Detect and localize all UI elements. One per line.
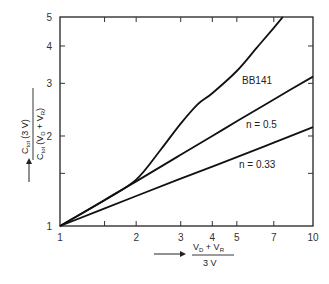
svg-text:VD + VR: VD + VR	[193, 242, 225, 253]
y-tick-label: 2	[46, 131, 52, 142]
x-tick-label: 3	[178, 232, 184, 243]
svg-text:Ctot(VD + VR): Ctot(VD + VR)	[35, 108, 46, 160]
x-tick-labels: 12345710	[57, 232, 319, 243]
y-axis-label: Ctot(3 V) Ctot(VD + VR)	[20, 88, 46, 160]
y-axis-arrow	[26, 158, 32, 182]
y-tick-label: 3	[46, 78, 52, 89]
y-tick-label: 5	[46, 12, 52, 23]
svg-text:3 V: 3 V	[203, 258, 217, 268]
series-line	[60, 77, 313, 226]
arrow-up-icon	[26, 158, 32, 164]
label-n033: n = 0.33	[239, 159, 276, 170]
x-axis-label: VD + VR 3 V	[154, 242, 234, 268]
x-tick-label: 7	[271, 232, 277, 243]
label-n05: n = 0.5	[246, 119, 277, 130]
x-tick-label: 1	[57, 232, 63, 243]
x-tick-label: 10	[307, 232, 319, 243]
chart: 12345710 12345 BB141 n = 0.5 n = 0.33 VD…	[0, 0, 329, 284]
arrow-right-icon	[180, 251, 186, 257]
svg-text:Ctot(3 V): Ctot(3 V)	[20, 119, 31, 154]
label-bb141: BB141	[242, 75, 272, 86]
x-tick-label: 5	[234, 232, 240, 243]
y-tick-label: 1	[46, 221, 52, 232]
y-tick-label: 4	[46, 41, 52, 52]
series-line	[60, 127, 313, 226]
x-tick-label: 2	[133, 232, 139, 243]
y-tick-labels: 12345	[46, 12, 52, 232]
